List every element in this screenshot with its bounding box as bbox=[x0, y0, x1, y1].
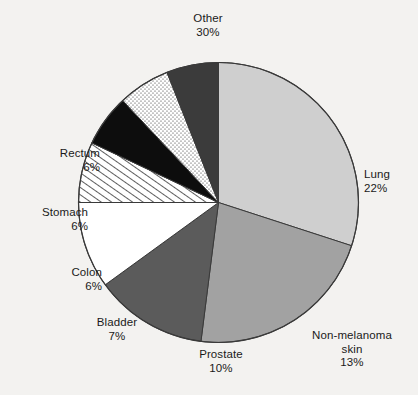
slice-label-colon-name: Colon bbox=[22, 266, 102, 280]
slice-label-stomach: Stomach 6% bbox=[2, 206, 88, 233]
slice-label-rectum-name: Rectum bbox=[16, 147, 100, 161]
slice-label-colon-percent: 6% bbox=[22, 280, 102, 294]
slice-label-other-name: Other bbox=[160, 12, 256, 26]
slice-label-prostate-percent: 10% bbox=[172, 362, 270, 376]
slice-label-bladder: Bladder 7% bbox=[74, 316, 160, 343]
slice-label-stomach-percent: 6% bbox=[2, 220, 88, 234]
chart-canvas: Other 30% Lung 22% Non-melanoma skin 13%… bbox=[0, 0, 418, 395]
slice-label-other-percent: 30% bbox=[160, 26, 256, 40]
slice-label-lung: Lung 22% bbox=[364, 168, 416, 195]
slice-label-rectum-percent: 6% bbox=[16, 161, 100, 175]
slice-label-rectum: Rectum 6% bbox=[16, 147, 100, 174]
slice-label-bladder-name: Bladder bbox=[74, 316, 160, 330]
slice-label-bladder-percent: 7% bbox=[74, 330, 160, 344]
slice-label-prostate-name: Prostate bbox=[172, 348, 270, 362]
slice-label-non-melanoma-skin-name2: skin bbox=[296, 343, 408, 357]
slice-label-non-melanoma-skin-percent: 13% bbox=[296, 356, 408, 370]
slice-label-lung-name: Lung bbox=[364, 168, 416, 182]
slice-label-non-melanoma-skin-name: Non-melanoma bbox=[296, 329, 408, 343]
slice-label-stomach-name: Stomach bbox=[2, 206, 88, 220]
slice-label-colon: Colon 6% bbox=[22, 266, 102, 293]
slice-label-non-melanoma-skin: Non-melanoma skin 13% bbox=[296, 329, 408, 370]
slice-label-lung-percent: 22% bbox=[364, 182, 416, 196]
slice-label-prostate: Prostate 10% bbox=[172, 348, 270, 375]
slice-label-other: Other 30% bbox=[160, 12, 256, 39]
pie-slices bbox=[79, 63, 359, 343]
